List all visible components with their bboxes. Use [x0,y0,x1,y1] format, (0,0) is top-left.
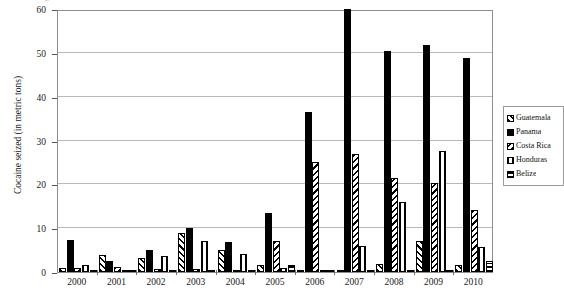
x-tick-label-2002: 2002 [147,277,166,287]
y-axis-ticks: 0102030405060 [0,0,57,283]
x-tick-label-2001: 2001 [107,277,126,287]
bar-honduras-2008 [399,202,406,272]
bar-belize-2003 [208,270,215,272]
bar-guatemala-2009 [416,241,423,272]
x-tick-separator-1 [97,270,98,275]
bar-belize-2005 [288,265,295,272]
legend-label: Belize [516,170,536,178]
bar-guatemala-2010 [455,265,462,272]
y-tick-label-20: 20 [37,180,47,190]
legend-item-panama[interactable]: Panama [507,125,561,139]
legend-swatch-icon-backward-diagonal [507,143,514,150]
legend-swatch-icon-forward-diagonal [507,115,514,122]
bar-honduras-2001 [122,270,129,272]
bar-honduras-2000 [82,265,89,272]
bar-costa-rica-2007 [352,154,359,272]
x-tick-label-2004: 2004 [226,277,245,287]
x-tick-label-2005: 2005 [266,277,285,287]
bar-guatemala-2005 [257,265,264,272]
bar-belize-2009 [446,270,453,272]
x-tick-separator-2 [136,270,137,275]
bar-guatemala-2001 [99,255,106,272]
bar-belize-2001 [129,270,136,272]
legend-swatch-icon-horizontal [507,171,514,178]
clipped-figure-title: Figure: Cocaine seized in Central Americ… [38,0,468,4]
bar-panama-2004 [225,242,232,272]
legend-label: Panama [516,128,541,136]
x-tick-label-2006: 2006 [305,277,324,287]
bar-costa-rica-2008 [391,178,398,272]
bar-costa-rica-2000 [74,268,81,272]
bar-belize-2010 [486,261,493,272]
y-tick-label-50: 50 [37,49,47,59]
x-tick-separator-4 [216,270,217,275]
bar-costa-rica-2005 [273,241,280,272]
x-tick-separator-9 [414,270,415,275]
bar-honduras-2003 [201,241,208,272]
bar-belize-2002 [169,270,176,272]
legend-item-costa-rica[interactable]: Costa Rica [507,139,561,153]
x-tick-separator-7 [334,270,335,275]
x-tick-label-2000: 2000 [67,277,86,287]
bar-panama-2010 [463,58,470,272]
bar-honduras-2007 [359,246,366,272]
chart-legend: GuatemalaPanamaCosta RicaHondurasBelize [503,106,564,186]
x-tick-label-2008: 2008 [384,277,403,287]
bar-belize-2004 [248,270,255,272]
y-tick-label-60: 60 [37,5,47,15]
bar-costa-rica-2001 [114,267,121,272]
x-tick-label-2007: 2007 [345,277,364,287]
y-tick-label-40: 40 [37,93,47,103]
legend-item-belize[interactable]: Belize [507,167,561,181]
x-tick-separator-10 [453,270,454,275]
bar-panama-2005 [265,213,272,272]
bar-belize-2006 [327,270,334,272]
x-tick-label-2010: 2010 [464,277,483,287]
legend-swatch-icon-solid [507,129,514,136]
bar-honduras-2010 [478,247,485,272]
bar-honduras-2002 [161,256,168,272]
bar-panama-2000 [67,240,74,272]
legend-item-guatemala[interactable]: Guatemala [507,111,561,125]
bar-belize-2008 [407,270,414,272]
legend-label: Honduras [516,156,547,164]
bar-costa-rica-2009 [431,183,438,272]
bar-panama-2003 [186,228,193,272]
bar-panama-2001 [106,261,113,272]
bar-costa-rica-2010 [471,210,478,272]
bar-guatemala-2002 [138,258,145,272]
bar-guatemala-2003 [178,233,185,272]
y-tick-label-10: 10 [37,224,47,234]
legend-label: Costa Rica [516,142,551,150]
bar-panama-2007 [344,9,351,272]
bar-panama-2006 [305,112,312,272]
x-tick-separator-3 [176,270,177,275]
bar-guatemala-2008 [376,264,383,272]
x-tick-separator-5 [255,270,256,275]
bar-series-container [58,11,492,272]
bar-honduras-2006 [320,270,327,272]
bar-belize-2007 [367,270,374,272]
bar-costa-rica-2006 [312,162,319,272]
bar-guatemala-2006 [297,270,304,272]
bar-guatemala-2007 [337,270,344,272]
bar-guatemala-2004 [218,250,225,272]
legend-item-honduras[interactable]: Honduras [507,153,561,167]
bar-panama-2008 [384,51,391,272]
x-tick-label-2003: 2003 [186,277,205,287]
legend-label: Guatemala [516,114,551,122]
bar-costa-rica-2003 [193,269,200,272]
bar-belize-2000 [90,270,97,272]
x-tick-separator-6 [295,270,296,275]
bar-honduras-2009 [439,151,446,272]
legend-swatch-icon-vertical [507,157,514,164]
bar-panama-2009 [423,45,430,272]
bar-chart-figure: Figure: Cocaine seized in Central Americ… [0,0,564,296]
bar-honduras-2005 [280,268,287,272]
y-tick-label-0: 0 [41,268,46,278]
plot-area [57,10,493,273]
bar-costa-rica-2004 [233,270,240,272]
bar-honduras-2004 [240,254,247,272]
y-tick-label-30: 30 [37,137,47,147]
bar-panama-2002 [146,250,153,272]
